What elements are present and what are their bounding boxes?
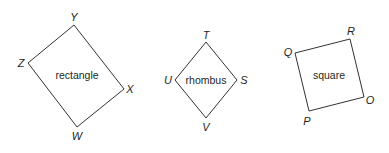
- figure-rhombus: rhombus TSVU: [164, 29, 248, 133]
- vertex-label-s: S: [240, 74, 248, 86]
- rhombus-label: rhombus: [186, 74, 227, 86]
- vertex-label-p: P: [303, 115, 311, 127]
- vertex-label-v: V: [202, 121, 211, 133]
- vertex-label-x: X: [125, 83, 134, 95]
- square-label: square: [313, 69, 345, 81]
- figure-rectangle: rectangle YXWZ: [17, 11, 135, 142]
- vertex-label-z: Z: [17, 57, 26, 69]
- vertex-label-q: Q: [284, 46, 293, 58]
- quadrilaterals-diagram: rectangle YXWZ rhombus TSVU square ROPQ: [0, 0, 389, 153]
- vertex-label-t: T: [203, 29, 211, 41]
- vertex-label-y: Y: [70, 11, 78, 23]
- vertex-label-r: R: [347, 25, 355, 37]
- vertex-label-w: W: [72, 130, 84, 142]
- vertex-label-u: U: [164, 74, 172, 86]
- rectangle-label: rectangle: [55, 69, 98, 81]
- vertex-label-o: O: [366, 94, 375, 106]
- figure-square: square ROPQ: [284, 25, 375, 127]
